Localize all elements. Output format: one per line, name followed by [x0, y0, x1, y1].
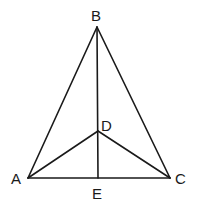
label-D: D [101, 117, 112, 134]
triangle-diagram: B A C D E [0, 0, 198, 204]
segment-BC [97, 27, 170, 178]
segment-BE [97, 27, 98, 178]
label-C: C [175, 170, 186, 187]
label-E: E [92, 185, 102, 202]
label-A: A [11, 170, 21, 187]
label-B: B [91, 7, 101, 24]
